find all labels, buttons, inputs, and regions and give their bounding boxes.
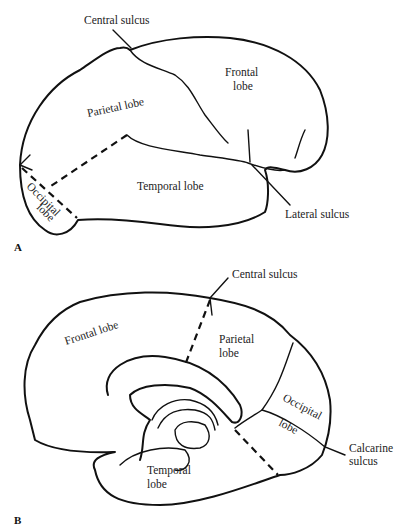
panel-b-frontal-label: Frontal lobe [63,318,120,347]
panel-b-parietal-label-2: lobe [219,347,239,359]
panel-a-central-sulcus-line [130,50,228,143]
panel-b-corpus-callosum [107,356,242,460]
panel-b-preoccipital-dashed [235,430,278,475]
panel-a-temporal-label: Temporal lobe [137,180,204,193]
panel-a-central-sulcus-label: Central sulcus [84,14,150,26]
panel-b-calcarine-label-1: Calcarine [349,442,393,454]
panel-a-label: A [14,241,22,253]
panel-a-frontal-label-1: Frontal [225,66,258,78]
panel-a-brain-outline [20,37,328,234]
panel-a-parieto-temporal-dashed [48,135,127,188]
panel-b-parieto-occipital-sulcus [235,343,293,428]
panel-b-calcarine-sulcus [262,410,345,455]
panel-b-temporal-label-1: Temporal [147,464,191,477]
panel-b-central-sulcus-label: Central sulcus [232,268,298,280]
panel-b-central-sulcus-dashed [185,300,210,365]
panel-a-lateral-sulcus-line [127,135,285,171]
panel-a-frontal-label-2: lobe [233,80,253,92]
panel-b-parietal-label-1: Parietal [219,333,254,345]
brain-lobes-diagram: Central sulcus Frontal lobe Parietal lob… [0,0,415,531]
panel-a-lateral-sulcus-label: Lateral sulcus [285,208,350,220]
panel-a-central-sulcus-pointer [113,30,131,48]
panel-b-medial-view: Central sulcus Frontal lobe Parietal lob… [14,268,393,526]
panel-b-temporal-label-2: lobe [147,478,167,490]
panel-b-occipital-label-2: lobe [277,416,300,436]
panel-a-parietal-label: Parietal lobe [86,95,145,119]
panel-b-calcarine-label-2: sulcus [349,455,378,467]
panel-a-lateral-sulcus-pointer [252,165,290,205]
panel-b-label: B [14,514,22,526]
panel-b-central-sulcus-pointer [210,278,228,298]
panel-a-lateral-view: Central sulcus Frontal lobe Parietal lob… [14,14,350,253]
